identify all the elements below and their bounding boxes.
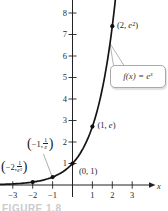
y-tick-label: 1	[49, 158, 67, 168]
point-label-neg2-1overE2: (−2, 1e2)	[1, 160, 27, 175]
point-label-0-1: (0, 1)	[79, 166, 97, 176]
data-point-dot	[31, 180, 35, 184]
y-tick-label: 4	[49, 94, 67, 104]
y-tick-label: 7	[49, 29, 67, 39]
y-tick-label: 8	[49, 8, 67, 18]
x-tick-label: −2	[25, 190, 41, 200]
function-callout-bubble: f(x) = ex	[110, 65, 166, 88]
x-axis-label: x	[157, 181, 161, 191]
x-tick-label: −3	[5, 190, 21, 200]
x-tick-label: 1	[84, 190, 100, 200]
graph-canvas	[0, 0, 168, 211]
y-tick-label: 6	[49, 51, 67, 61]
data-point-dot	[110, 24, 114, 28]
x-tick-label: −1	[45, 190, 61, 200]
data-point-dot	[70, 161, 74, 165]
y-tick-label: 3	[49, 115, 67, 125]
point-label-1-e: (1, e)	[98, 120, 116, 130]
point-label-2-e2: (2, e2)	[117, 20, 138, 30]
x-tick-label: 3	[124, 190, 140, 200]
data-point-dot	[51, 175, 55, 179]
exponential-curve	[0, 0, 115, 184]
y-tick-label: 5	[49, 72, 67, 82]
callout-tail	[110, 44, 124, 66]
x-tick-label: 2	[104, 190, 120, 200]
exponential-function-figure: (0, 1) (1, e) (2, e2) (−1, 1e) (−2, 1e2)…	[0, 0, 168, 211]
x-axis-arrow-icon	[149, 182, 156, 188]
y-tick-label: 2	[49, 137, 67, 147]
figure-caption: FIGURE 1.8	[2, 203, 82, 211]
data-point-dot	[90, 124, 94, 128]
